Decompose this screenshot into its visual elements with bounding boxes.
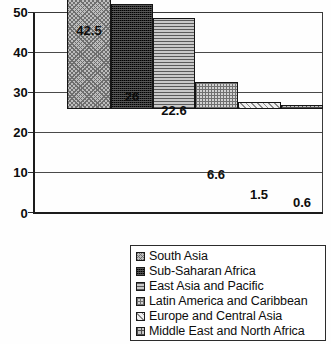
bar-europe-and-central-asia[interactable] <box>238 102 281 109</box>
legend-swatch-icon-south-asia <box>136 252 145 261</box>
legend-label-latin-america-and-caribbean: Latin America and Caribbean <box>149 295 308 308</box>
bar-series: 42.5 26 22.6 6.6 1.5 0.6 <box>0 0 331 240</box>
bar-label-middle-east-and-north-africa: 0.6 <box>279 196 325 209</box>
legend-label-europe-and-central-asia: Europe and Central Asia <box>149 310 282 323</box>
plot-area: 50 40 30 20 10 0 42.5 26 <box>0 0 331 240</box>
legend-swatch-icon-sub-saharan-africa <box>136 267 145 276</box>
legend-label-sub-saharan-africa: Sub-Saharan Africa <box>149 265 256 278</box>
bar-middle-east-and-north-africa[interactable] <box>281 105 323 109</box>
bar-label-sub-saharan-africa: 26 <box>110 90 154 103</box>
chart-root: 50 40 30 20 10 0 42.5 26 <box>0 0 331 344</box>
legend-swatch-icon-east-asia-and-pacific <box>136 282 145 291</box>
bar-latin-america-and-caribbean[interactable] <box>195 82 238 109</box>
bar-label-latin-america-and-caribbean: 6.6 <box>193 168 239 181</box>
legend-swatch-icon-latin-america-and-caribbean <box>136 297 145 306</box>
bar-label-europe-and-central-asia: 1.5 <box>236 188 282 201</box>
legend-swatch-icon-europe-and-central-asia <box>136 312 145 321</box>
legend: South Asia Sub-Saharan Africa East Asia … <box>130 245 326 341</box>
bar-label-south-asia: 42.5 <box>67 24 111 37</box>
legend-item-sub-saharan-africa[interactable]: Sub-Saharan Africa <box>136 264 325 279</box>
bar-south-asia[interactable] <box>67 0 111 109</box>
legend-item-latin-america-and-caribbean[interactable]: Latin America and Caribbean <box>136 294 325 309</box>
legend-item-middle-east-and-north-africa[interactable]: Middle East and North Africa <box>136 324 325 339</box>
legend-label-east-asia-and-pacific: East Asia and Pacific <box>149 280 264 293</box>
legend-label-south-asia: South Asia <box>149 250 208 263</box>
bar-east-asia-and-pacific[interactable] <box>153 18 195 109</box>
legend-item-europe-and-central-asia[interactable]: Europe and Central Asia <box>136 309 325 324</box>
bar-label-east-asia-and-pacific: 22.6 <box>150 104 198 117</box>
legend-swatch-icon-middle-east-and-north-africa <box>136 327 145 336</box>
legend-item-east-asia-and-pacific[interactable]: East Asia and Pacific <box>136 279 325 294</box>
legend-label-middle-east-and-north-africa: Middle East and North Africa <box>149 325 305 338</box>
legend-item-south-asia[interactable]: South Asia <box>136 249 325 264</box>
